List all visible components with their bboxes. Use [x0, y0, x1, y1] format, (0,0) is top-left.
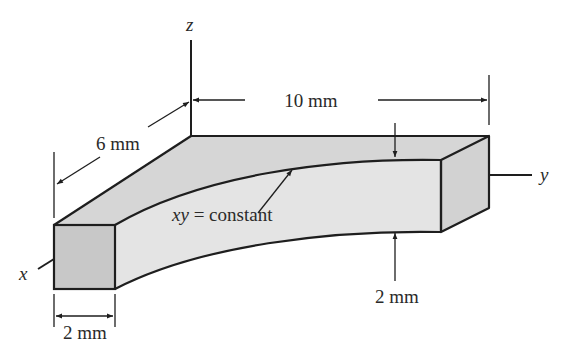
curve-annotation-rest: = constant — [189, 204, 273, 225]
dim-6mm-upper-line — [148, 102, 189, 127]
dim-6mm-lower-line — [57, 157, 100, 184]
curve-annotation-label: xy = constant — [171, 204, 273, 225]
dim-width-label: 2 mm — [63, 322, 107, 343]
x-axis-label: x — [18, 263, 28, 284]
dim-6mm-label: 6 mm — [96, 133, 140, 154]
dim-thickness-label: 2 mm — [375, 286, 419, 307]
x-axis — [38, 259, 54, 269]
curve-annotation-var: xy — [171, 204, 189, 225]
y-axis-label: y — [538, 164, 549, 185]
z-axis-label: z — [185, 14, 194, 35]
beam-diagram: z y x 10 mm 6 mm 2 mm 2 mm xy = constant — [0, 0, 568, 355]
beam-end-face — [54, 225, 115, 289]
dim-10mm-label: 10 mm — [284, 90, 338, 111]
